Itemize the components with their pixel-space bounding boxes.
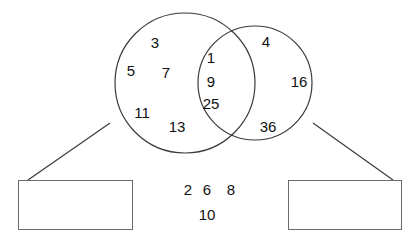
left-leader-line	[28, 123, 110, 180]
left-set-value: 13	[169, 119, 186, 134]
right-set-value: 4	[262, 34, 270, 49]
intersection-value: 1	[207, 50, 215, 65]
left-label-box[interactable]	[18, 180, 133, 230]
left-set-value: 7	[162, 65, 170, 80]
intersection-value: 25	[203, 96, 220, 111]
left-label-box-text	[19, 181, 132, 229]
right-set-value: 36	[260, 119, 277, 134]
outside-value: 8	[227, 182, 235, 197]
left-set-value: 11	[134, 105, 150, 120]
outside-value: 10	[199, 207, 216, 222]
right-label-box[interactable]	[288, 180, 402, 230]
venn-diagram-figure: 3 5 7 11 13 1 9 25 4 16 36 2 6 8 10	[0, 0, 418, 239]
right-set-value: 16	[291, 74, 308, 89]
outside-value: 6	[203, 182, 211, 197]
left-set-value: 5	[127, 63, 135, 78]
left-set-value: 3	[151, 35, 159, 50]
intersection-value: 9	[207, 74, 215, 89]
outside-value: 2	[184, 182, 192, 197]
right-label-box-text	[289, 181, 401, 229]
right-leader-line	[313, 123, 393, 180]
